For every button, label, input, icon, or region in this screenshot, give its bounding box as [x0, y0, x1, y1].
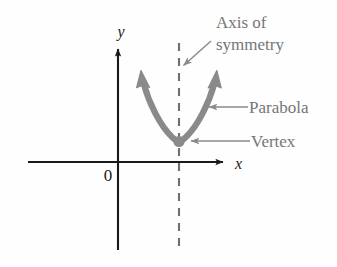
figure-canvas: y x 0 Axis of symmetry Parabola Vertex	[0, 0, 337, 267]
axis-of-symmetry-label-line1: Axis of	[216, 13, 267, 32]
vertex-label: Vertex	[251, 132, 296, 151]
parabola-figure: y x 0 Axis of symmetry Parabola Vertex	[0, 0, 337, 267]
origin-label: 0	[104, 166, 113, 185]
axis-of-symmetry-label-line2: symmetry	[216, 35, 284, 54]
y-axis-label: y	[115, 23, 125, 41]
x-axis-label: x	[234, 155, 242, 172]
vertex-dot	[173, 136, 184, 147]
parabola-label: Parabola	[249, 98, 309, 117]
